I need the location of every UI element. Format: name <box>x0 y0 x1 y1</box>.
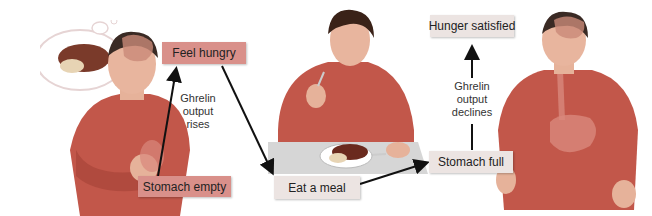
node-feel-hungry: Feel hungry <box>162 42 246 64</box>
node-hunger-satisfied-label: Hunger satisfied <box>429 19 516 33</box>
arrow-meal-to-full <box>360 163 426 184</box>
annotation-line: Ghrelin <box>178 92 218 105</box>
annotation-line: output <box>450 93 494 106</box>
node-stomach-full-label: Stomach full <box>438 155 504 169</box>
arrow-empty-to-hungry <box>158 70 176 176</box>
node-eat-a-meal: Eat a meal <box>274 176 360 199</box>
node-stomach-empty-label: Stomach empty <box>143 180 226 194</box>
annotation-ghrelin-declines: Ghrelin output declines <box>450 80 494 119</box>
node-eat-a-meal-label: Eat a meal <box>288 181 345 195</box>
annotation-line: rises <box>178 118 218 131</box>
node-stomach-full: Stomach full <box>429 151 513 173</box>
annotation-ghrelin-rises: Ghrelin output rises <box>178 92 218 131</box>
annotation-line: Ghrelin <box>450 80 494 93</box>
node-feel-hungry-label: Feel hungry <box>172 46 235 60</box>
node-stomach-empty: Stomach empty <box>138 176 231 197</box>
arrow-hungry-to-meal <box>222 66 272 172</box>
annotation-line: output <box>178 105 218 118</box>
annotation-line: declines <box>450 106 494 119</box>
node-hunger-satisfied: Hunger satisfied <box>430 15 514 37</box>
